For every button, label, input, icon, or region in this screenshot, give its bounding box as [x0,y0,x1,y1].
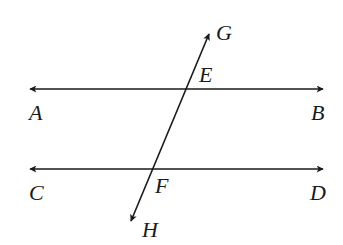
label-d: D [309,180,326,205]
label-g: G [216,20,232,45]
label-f: F [154,173,169,198]
label-c: C [29,180,44,205]
label-a: A [27,100,43,125]
transversal-gh [131,34,209,221]
label-h: H [141,217,159,242]
parallel-lines-diagram: G E A B C F D H [0,0,343,245]
label-b: B [311,100,324,125]
label-e: E [198,62,213,87]
